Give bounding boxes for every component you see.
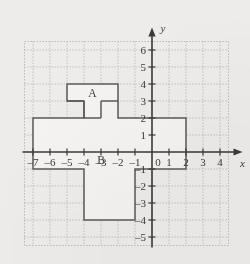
x-tick-label: 2 [183, 156, 189, 168]
origin-label: 0 [155, 156, 161, 168]
y-axis-label: y [160, 22, 166, 34]
x-tick-label: 1 [166, 156, 172, 168]
region-label-a: A [88, 87, 97, 99]
y-tick-label: 1 [141, 129, 147, 141]
x-tick-label: –7 [27, 156, 40, 168]
coordinate-plane-svg: –7–6–5–4–3–2–11234654321–1–2–3–4–50xyAB [0, 0, 250, 264]
x-tick-label: 3 [200, 156, 206, 168]
x-tick-label: –6 [44, 156, 57, 168]
x-axis-arrow-icon [234, 148, 243, 155]
y-tick-label: –5 [134, 231, 147, 243]
y-tick-label: 5 [141, 61, 147, 73]
y-tick-label: –3 [134, 197, 147, 209]
x-axis-label: x [239, 157, 245, 169]
x-tick-label: –2 [112, 156, 124, 168]
y-tick-label: –2 [134, 180, 146, 192]
y-tick-label: 3 [141, 95, 147, 107]
y-axis-arrow-icon [148, 28, 155, 37]
y-tick-label: –1 [134, 163, 146, 175]
region-label-b: B [97, 154, 105, 166]
y-tick-label: 4 [141, 78, 147, 90]
x-tick-label: 4 [217, 156, 223, 168]
x-tick-label: –4 [78, 156, 91, 168]
y-tick-label: 2 [141, 112, 147, 124]
y-tick-label: 6 [141, 44, 147, 56]
x-tick-label: –5 [61, 156, 74, 168]
figure-canvas: –7–6–5–4–3–2–11234654321–1–2–3–4–50xyAB [0, 0, 250, 264]
y-tick-label: –4 [134, 214, 147, 226]
